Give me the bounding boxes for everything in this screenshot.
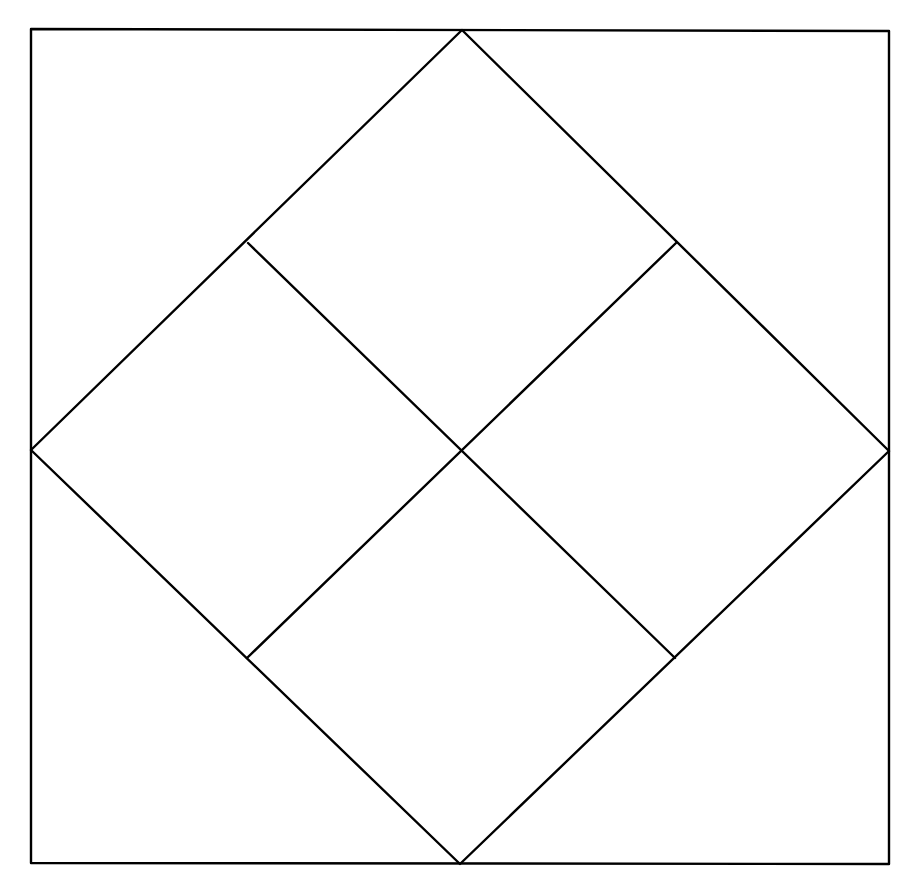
quilt-block-diagram <box>0 0 912 876</box>
background <box>0 0 912 876</box>
